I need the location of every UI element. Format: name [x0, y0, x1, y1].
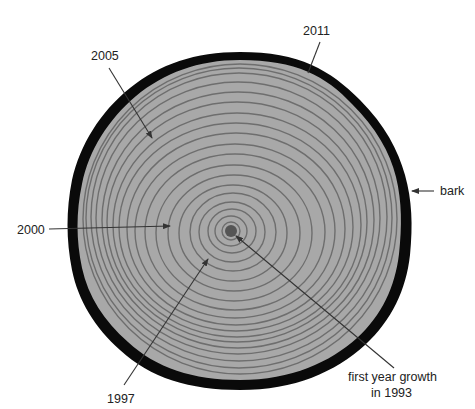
label-1997: 1997 — [107, 392, 135, 406]
label-first-year-line2: in 1993 — [371, 386, 412, 400]
label-bark: bark — [440, 184, 465, 198]
tree-ring-diagram: 2005 2011 bark 2000 1997 first year grow… — [0, 0, 475, 409]
label-first-year-line1: first year growth — [348, 370, 437, 384]
pith-center — [225, 225, 237, 237]
label-2005: 2005 — [91, 49, 119, 63]
label-2011: 2011 — [303, 24, 330, 38]
label-2000: 2000 — [17, 223, 45, 237]
